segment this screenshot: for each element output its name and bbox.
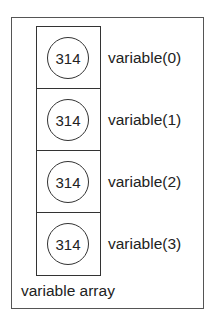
element-label-3: variable(3) — [108, 235, 181, 253]
array-cell-1: 314 — [37, 88, 100, 151]
element-label-0: variable(0) — [108, 49, 181, 67]
array-cell-3: 314 — [37, 212, 100, 275]
array-cell-0: 314 — [37, 27, 100, 89]
array-caption: variable array — [21, 282, 115, 300]
cell-value: 314 — [55, 112, 80, 129]
value-circle: 314 — [47, 223, 89, 265]
element-label-1: variable(1) — [108, 111, 181, 129]
cell-value: 314 — [55, 174, 80, 191]
cell-value: 314 — [55, 236, 80, 253]
element-label-2: variable(2) — [108, 173, 181, 191]
variable-array-box: 314 314 314 314 — [36, 26, 101, 276]
value-circle: 314 — [47, 37, 89, 79]
value-circle: 314 — [47, 161, 89, 203]
array-cell-2: 314 — [37, 150, 100, 213]
value-circle: 314 — [47, 99, 89, 141]
cell-value: 314 — [55, 50, 80, 67]
